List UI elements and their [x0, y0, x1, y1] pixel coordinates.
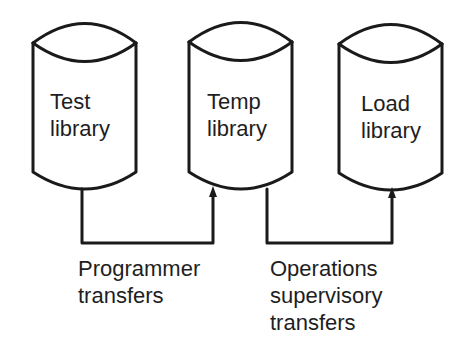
label-line: library	[50, 115, 110, 142]
operations-transfer-connector	[267, 189, 392, 243]
label-line: supervisory	[270, 282, 382, 309]
temp-library-label: Temp library	[207, 88, 267, 142]
arrowhead-temp-icon	[209, 186, 217, 197]
diagram-canvas	[0, 0, 469, 347]
load-library-label: Load library	[361, 90, 421, 144]
label-line: Test	[50, 88, 110, 115]
label-line: transfers	[78, 282, 200, 309]
programmer-transfer-connector	[82, 189, 213, 243]
label-line: Programmer	[78, 255, 200, 282]
label-line: Temp	[207, 88, 267, 115]
label-line: transfers	[270, 309, 382, 336]
label-line: library	[361, 117, 421, 144]
programmer-transfers-label: Programmer transfers	[78, 255, 200, 309]
operations-supervisory-transfers-label: Operations supervisory transfers	[270, 255, 382, 336]
label-line: Operations	[270, 255, 382, 282]
test-library-label: Test library	[50, 88, 110, 142]
label-line: Load	[361, 90, 421, 117]
label-line: library	[207, 115, 267, 142]
